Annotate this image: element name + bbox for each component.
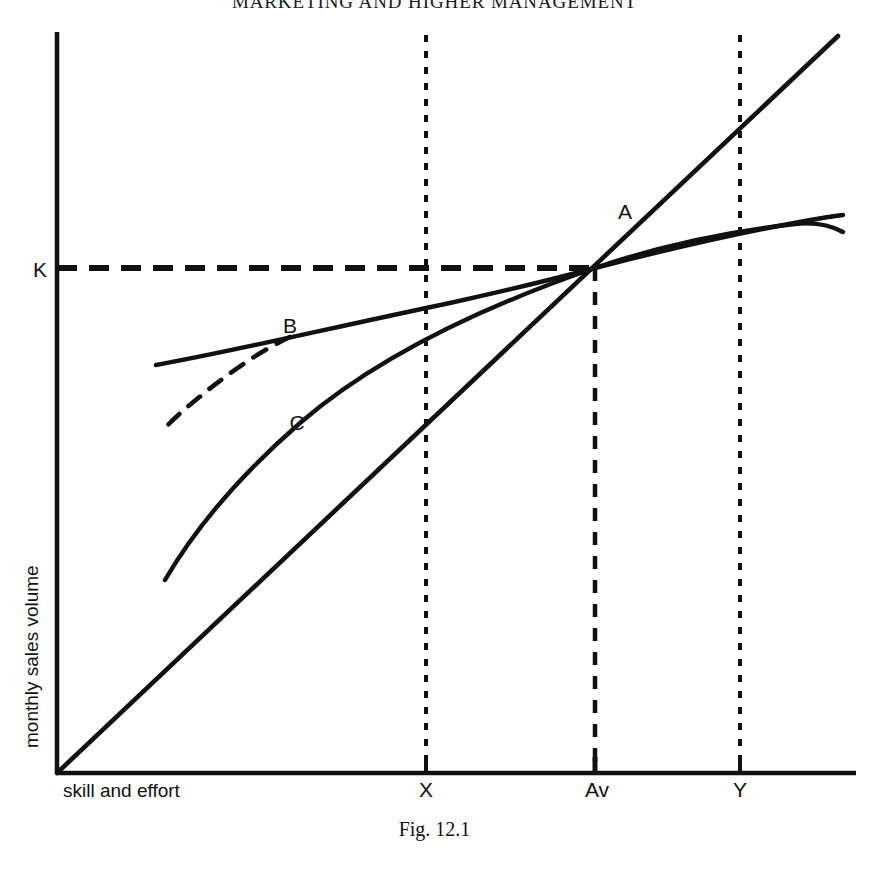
figure-page: MARKETING AND HIGHER MANAGEMENT (0, 0, 869, 873)
figure-12-1: monthly sales volume skill and effort X … (0, 0, 869, 873)
curve-label-a: A (618, 200, 632, 223)
y-axis-title: monthly sales volume (21, 565, 42, 748)
x-tick-label-av: Av (585, 778, 610, 801)
x-tick-label-x: X (419, 778, 433, 801)
x-axis-title: skill and effort (63, 780, 181, 801)
series-a-line (57, 36, 838, 773)
tick-marks-group (426, 757, 740, 773)
reference-lines-group (57, 35, 740, 773)
curve-label-b: B (283, 314, 297, 337)
y-tick-label-k: K (33, 258, 47, 281)
figure-caption: Fig. 12.1 (0, 818, 869, 841)
curve-label-c: C (289, 411, 304, 434)
series-group (57, 36, 843, 773)
x-tick-label-y: Y (733, 778, 747, 801)
